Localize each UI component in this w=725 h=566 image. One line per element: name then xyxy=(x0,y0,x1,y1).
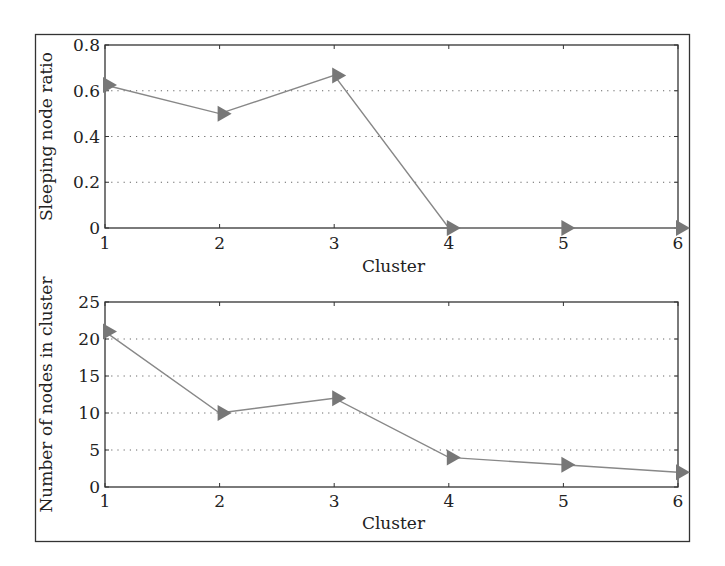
x-tick-label: 2 xyxy=(214,491,225,511)
x-tick-label: 1 xyxy=(100,491,111,511)
x-tick-label: 6 xyxy=(673,491,684,511)
x-tick-label: 4 xyxy=(443,233,454,253)
y-tick-label: 20 xyxy=(78,329,100,349)
y-tick-label: 0.4 xyxy=(73,127,100,147)
x-tick-label: 4 xyxy=(443,491,454,511)
y-tick-label: 0.6 xyxy=(73,81,100,101)
y-tick-label: 25 xyxy=(78,292,100,312)
data-point-marker xyxy=(676,464,690,480)
chart-nodes-in-cluster: 0510152025123456ClusterNumber of nodes i… xyxy=(36,276,690,533)
y-tick-label: 15 xyxy=(78,366,100,386)
series-line xyxy=(105,332,678,473)
data-point-marker xyxy=(447,449,461,465)
y-axis-label: Number of nodes in cluster xyxy=(36,276,56,513)
y-tick-label: 10 xyxy=(78,403,100,423)
data-point-marker xyxy=(103,77,117,93)
data-point-marker xyxy=(561,457,575,473)
x-tick-label: 2 xyxy=(214,233,225,253)
x-tick-label: 5 xyxy=(558,491,569,511)
y-tick-label: 0.8 xyxy=(73,35,100,55)
axes-frame xyxy=(105,302,678,487)
x-tick-label: 5 xyxy=(558,233,569,253)
x-axis-label: Cluster xyxy=(362,256,426,276)
figure: 00.20.40.60.8123456ClusterSleeping node … xyxy=(0,0,725,566)
y-tick-label: 0 xyxy=(89,477,100,497)
x-tick-label: 1 xyxy=(100,233,111,253)
axes-frame xyxy=(105,45,678,228)
y-tick-label: 0 xyxy=(89,218,100,238)
data-point-marker xyxy=(103,324,117,340)
y-tick-label: 5 xyxy=(89,440,100,460)
chart-sleeping-node-ratio: 00.20.40.60.8123456ClusterSleeping node … xyxy=(36,35,690,276)
series-line xyxy=(105,75,678,228)
x-tick-label: 3 xyxy=(329,491,340,511)
data-point-marker xyxy=(218,106,232,122)
data-point-marker xyxy=(218,405,232,421)
y-tick-label: 0.2 xyxy=(73,172,100,192)
x-tick-label: 6 xyxy=(673,233,684,253)
x-axis-label: Cluster xyxy=(362,513,426,533)
y-axis-label: Sleeping node ratio xyxy=(36,52,56,221)
x-tick-label: 3 xyxy=(329,233,340,253)
figure-border xyxy=(36,35,690,542)
